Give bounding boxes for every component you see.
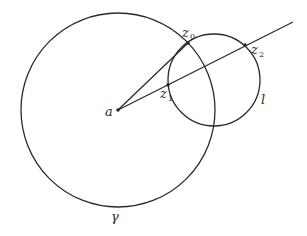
point-z0 bbox=[186, 41, 190, 45]
circle-l bbox=[168, 34, 260, 126]
label-z2: z bbox=[250, 42, 258, 57]
label-z0-subscript: 0 bbox=[190, 32, 195, 41]
label-a: a bbox=[105, 104, 113, 119]
label-l: l bbox=[261, 92, 265, 107]
segment-a-z0 bbox=[118, 43, 188, 110]
label-z1-subscript: 1 bbox=[168, 94, 173, 103]
point-z2 bbox=[243, 43, 247, 47]
diagram-canvas: a z 0 z 1 z 2 l γ bbox=[0, 0, 307, 236]
label-z0: z bbox=[181, 25, 189, 40]
label-z1: z bbox=[159, 86, 167, 101]
point-a bbox=[116, 108, 120, 112]
label-gamma: γ bbox=[111, 209, 119, 224]
label-z2-subscript: 2 bbox=[259, 50, 264, 59]
